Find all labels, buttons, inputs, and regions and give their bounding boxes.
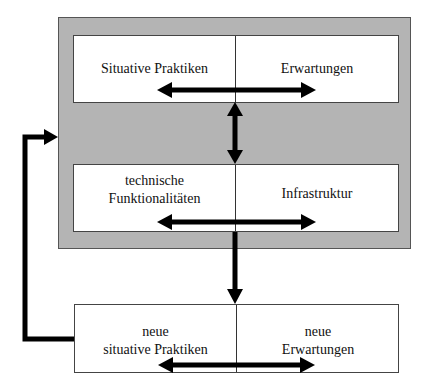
label-neue-erwartungen: neue Erwartungen	[237, 323, 399, 359]
bottom-box: neue situative Praktiken neue Erwartunge…	[74, 304, 399, 373]
middle-box: technische Funktionalitäten Infrastruktu…	[73, 164, 399, 232]
label-technische-funktionalitaeten: technische Funktionalitäten	[74, 172, 235, 208]
label-neue-2: neue	[237, 323, 399, 341]
label-neue-1: neue	[75, 323, 236, 341]
label-funktionalitaeten: Funktionalitäten	[74, 190, 235, 208]
label-situative-praktiken-2: situative Praktiken	[75, 341, 236, 359]
label-erwartungen: Erwartungen	[236, 60, 398, 78]
label-situative-praktiken: Situative Praktiken	[74, 60, 235, 78]
top-box: Situative Praktiken Erwartungen	[73, 35, 399, 103]
label-erwartungen-2: Erwartungen	[237, 341, 399, 359]
label-technische: technische	[74, 172, 235, 190]
label-infrastruktur: Infrastruktur	[236, 185, 398, 203]
label-neue-situative-praktiken: neue situative Praktiken	[75, 323, 236, 359]
